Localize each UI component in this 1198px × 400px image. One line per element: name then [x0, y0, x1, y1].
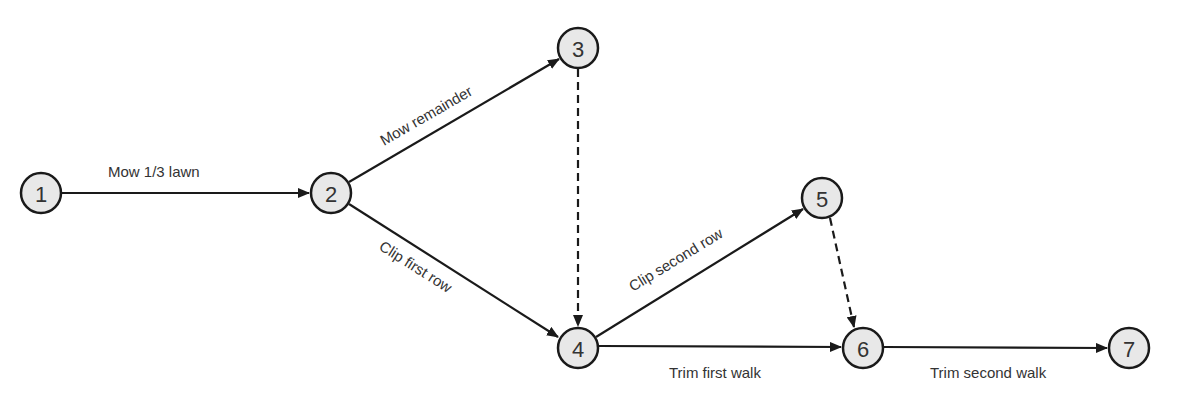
edge-label-1-2: Mow 1/3 lawn	[108, 163, 200, 180]
edge-label-4-6: Trim first walk	[669, 364, 761, 381]
node-4: 4	[558, 328, 598, 368]
node-7: 7	[1109, 328, 1149, 368]
node-6: 6	[843, 328, 883, 368]
node-6-label: 6	[857, 337, 869, 362]
node-2-label: 2	[325, 182, 337, 207]
nodes: 1 2 3 4 5 6 7	[21, 28, 1149, 368]
edge-5-6-dummy	[830, 218, 854, 327]
node-2: 2	[311, 173, 351, 213]
edge-2-4	[349, 204, 558, 337]
node-3: 3	[558, 28, 598, 68]
node-7-label: 7	[1123, 337, 1135, 362]
node-3-label: 3	[572, 37, 584, 62]
node-5-label: 5	[816, 187, 828, 212]
network-diagram: Mow 1/3 lawn Mow remainder Clip first ro…	[0, 0, 1198, 400]
edge-4-6	[599, 346, 841, 347]
node-1-label: 1	[35, 182, 47, 207]
edge-6-7	[884, 347, 1107, 348]
node-1: 1	[21, 173, 61, 213]
edges	[62, 59, 1107, 348]
edge-2-3	[349, 59, 559, 182]
edge-label-4-5: Clip second row	[626, 224, 726, 294]
node-5: 5	[802, 178, 842, 218]
edge-4-5	[596, 209, 803, 337]
node-4-label: 4	[572, 337, 584, 362]
edge-label-6-7: Trim second walk	[930, 364, 1047, 381]
edge-label-2-3: Mow remainder	[377, 82, 475, 148]
